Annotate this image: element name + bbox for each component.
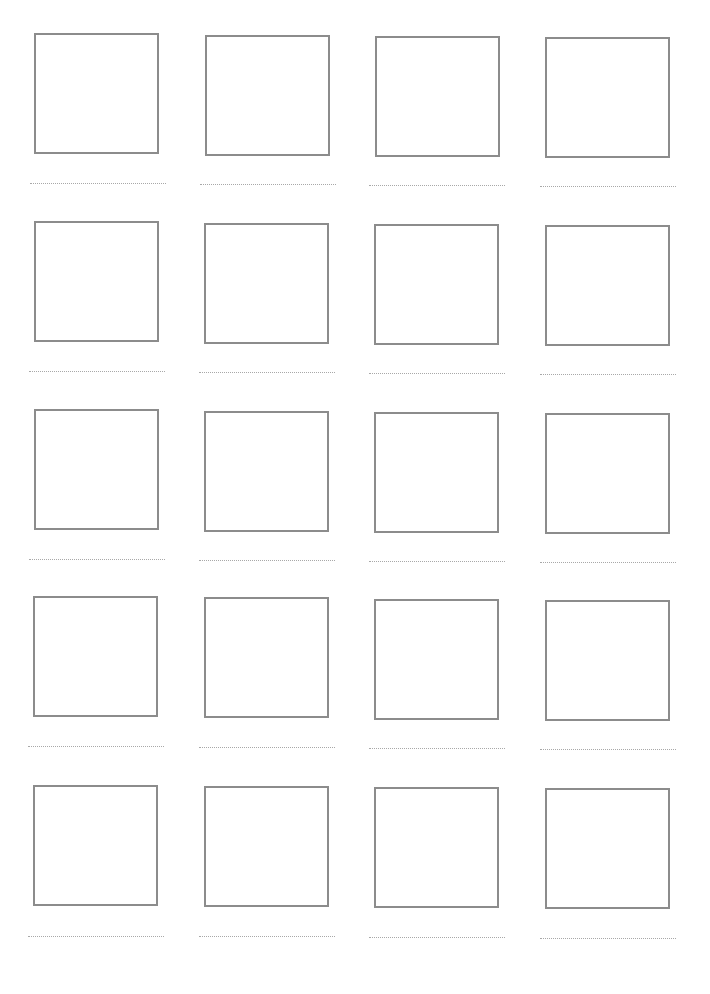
storyboard-frame-r2c2 bbox=[204, 223, 329, 344]
storyboard-frame-r5c1 bbox=[33, 785, 158, 906]
caption-line-r5c3 bbox=[369, 937, 505, 938]
caption-line-r1c3 bbox=[369, 185, 505, 186]
storyboard-frame-r4c1 bbox=[33, 596, 158, 717]
storyboard-frame-r4c4 bbox=[545, 600, 670, 721]
storyboard-frame-r3c1 bbox=[34, 409, 159, 530]
caption-line-r3c4 bbox=[540, 562, 676, 563]
caption-line-r2c3 bbox=[369, 373, 505, 374]
storyboard-frame-r1c3 bbox=[375, 36, 500, 157]
caption-line-r2c1 bbox=[29, 371, 165, 372]
caption-line-r4c2 bbox=[199, 747, 335, 748]
caption-line-r5c4 bbox=[540, 938, 676, 939]
storyboard-frame-r1c2 bbox=[205, 35, 330, 156]
storyboard-frame-r2c3 bbox=[374, 224, 499, 345]
caption-line-r1c1 bbox=[30, 183, 166, 184]
storyboard-frame-r3c2 bbox=[204, 411, 329, 532]
storyboard-frame-r1c1 bbox=[34, 33, 159, 154]
storyboard-page bbox=[0, 0, 710, 994]
storyboard-frame-r2c4 bbox=[545, 225, 670, 346]
caption-line-r3c1 bbox=[29, 559, 165, 560]
storyboard-frame-r4c3 bbox=[374, 599, 499, 720]
caption-line-r4c1 bbox=[28, 746, 164, 747]
storyboard-frame-r5c4 bbox=[545, 788, 670, 909]
caption-line-r1c4 bbox=[540, 186, 676, 187]
caption-line-r1c2 bbox=[200, 184, 336, 185]
caption-line-r5c1 bbox=[28, 936, 164, 937]
caption-line-r4c4 bbox=[540, 749, 676, 750]
storyboard-frame-r3c3 bbox=[374, 412, 499, 533]
storyboard-frame-r3c4 bbox=[545, 413, 670, 534]
caption-line-r3c3 bbox=[369, 561, 505, 562]
caption-line-r4c3 bbox=[369, 748, 505, 749]
caption-line-r2c2 bbox=[199, 372, 335, 373]
storyboard-frame-r4c2 bbox=[204, 597, 329, 718]
caption-line-r3c2 bbox=[199, 560, 335, 561]
storyboard-frame-r1c4 bbox=[545, 37, 670, 158]
storyboard-frame-r5c2 bbox=[204, 786, 329, 907]
storyboard-frame-r5c3 bbox=[374, 787, 499, 908]
caption-line-r5c2 bbox=[199, 936, 335, 937]
caption-line-r2c4 bbox=[540, 374, 676, 375]
storyboard-frame-r2c1 bbox=[34, 221, 159, 342]
